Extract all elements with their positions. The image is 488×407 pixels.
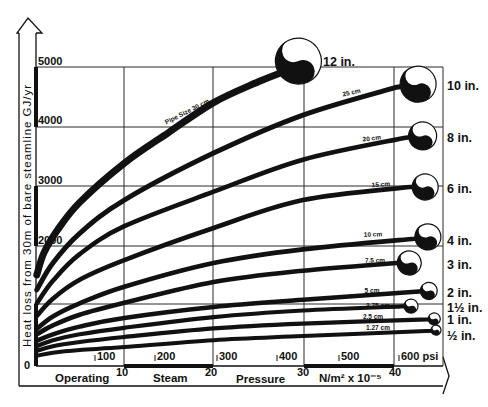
pipe-size-label: 2 in.	[447, 286, 472, 300]
psi-label: 500	[341, 350, 359, 362]
pipe-section-icon	[429, 323, 442, 336]
pipe-size-curves	[37, 61, 436, 356]
psi-label: 300	[219, 350, 237, 362]
x-arrowhead-icon	[443, 357, 449, 394]
pipe-size-label: 10 in.	[447, 79, 479, 93]
y-arrowhead-icon	[17, 18, 42, 33]
x-axis-title-steam: Steam	[153, 372, 188, 384]
pipe-size-label: 6 in.	[447, 182, 472, 196]
pipe-size-label: 8 in.	[447, 131, 472, 145]
psi-label: 400	[279, 350, 297, 362]
curve-metric-label: 7.5 cm	[365, 256, 386, 263]
x-axis-title-operating: Operating	[55, 372, 109, 384]
y-tick-label: 2000	[38, 234, 62, 246]
x-scale-bar-10-20	[124, 364, 213, 368]
curve-metric-label: 1.27 cm	[366, 324, 390, 331]
curve-metric-label: 3.75 cm	[366, 302, 390, 309]
psi-label: 100	[97, 350, 115, 362]
curve-metric-label: 2.5 cm	[363, 313, 383, 320]
y-tick-label: 5000	[38, 55, 62, 67]
pipe-section-icon	[402, 297, 421, 316]
pipe-size-label: 4 in.	[447, 234, 472, 248]
pipe-section-icon	[404, 117, 441, 154]
pipe-section-icon	[411, 220, 446, 255]
pipe-section-icon	[426, 311, 442, 327]
x-tick-label: 40	[389, 366, 401, 378]
x-scale-bar-30-40	[304, 364, 394, 368]
x-tick-label: 10	[116, 366, 128, 378]
pipe-section-icon	[418, 280, 441, 303]
pipe-size-label: 12 in.	[323, 55, 355, 69]
curve-metric-label: 5 cm	[365, 287, 380, 294]
y-tick-label: 4000	[38, 114, 62, 126]
heat-loss-chart: Pipe Size 30 cm12 in.25 cm10 in.20 cm8 i…	[0, 0, 488, 407]
pipe-section-icon	[408, 170, 443, 205]
curve-metric-label: 15 cm	[371, 180, 390, 188]
x-axis-unit: N/m² x 10⁻⁵	[319, 372, 382, 384]
curve-metric-label: 10 cm	[364, 230, 383, 238]
y-tick-label: 3000	[38, 174, 62, 186]
y-axis-title: Heat loss from 30m of bare steamline GJ/…	[21, 85, 33, 347]
pipe-section-icon	[393, 247, 425, 279]
origin-label: 0	[24, 359, 30, 371]
x-tick-label: 20	[205, 366, 217, 378]
pipe-section-icon	[268, 31, 329, 92]
x-tick-label: 30	[297, 366, 309, 378]
x-axis-title-pressure: Pressure	[236, 373, 285, 385]
pipe-size-label: 3 in.	[447, 258, 472, 272]
pipe-size-label: ½ in.	[447, 329, 475, 343]
psi-label: 600 psi	[401, 350, 438, 362]
pipe-size-label: 1 in.	[447, 313, 472, 327]
psi-label: 200	[157, 350, 175, 362]
